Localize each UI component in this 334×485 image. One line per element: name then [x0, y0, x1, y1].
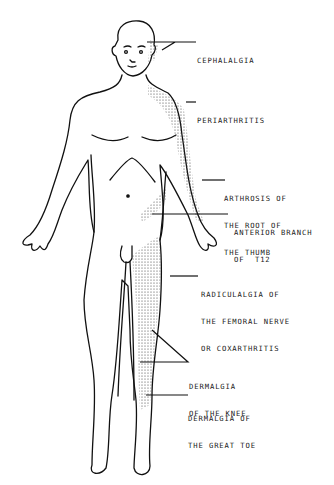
label-line: RADICULALGIA OF — [201, 290, 290, 299]
label-periarthritis: PERIARTHRITIS — [197, 98, 265, 134]
label-line: PERIARTHRITIS — [197, 116, 265, 125]
head-outline — [112, 21, 155, 76]
label-line: OF T12 — [234, 255, 312, 264]
label-dermalgia-toe: DERMALGIA OF THE GREAT TOE — [188, 396, 256, 459]
pain-zones — [132, 40, 204, 410]
label-line: ARTHROSIS OF — [224, 194, 287, 203]
label-line: THE GREAT TOE — [188, 441, 256, 450]
label-line: DERMALGIA — [189, 382, 247, 391]
label-anterior-branch: ANTERIOR BRANCH OF T12 — [234, 210, 312, 273]
label-cephalalgia: CEPHALALGIA — [197, 38, 255, 74]
label-line: ANTERIOR BRANCH — [234, 228, 312, 237]
label-radiculalgia: RADICULALGIA OF THE FEMORAL NERVE OR COX… — [201, 272, 290, 362]
label-line: THE FEMORAL NERVE — [201, 317, 290, 326]
label-line: OR COXARTHRITIS — [201, 344, 290, 353]
label-line: CEPHALALGIA — [197, 56, 255, 65]
label-line: DERMALGIA OF — [188, 414, 256, 423]
